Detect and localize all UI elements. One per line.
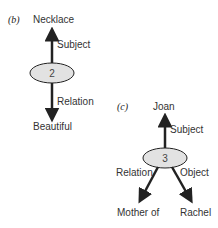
node-mother-of: Mother of <box>117 207 159 218</box>
diagram-canvas: (b) Necklace Subject 2 Relation Beautifu… <box>0 0 218 228</box>
panel-label-c: (c) <box>117 101 129 113</box>
edge-label-relation-b: Relation <box>57 96 94 107</box>
node-rachel: Rachel <box>180 207 211 218</box>
diagram-b: (b) Necklace Subject 2 Relation Beautifu… <box>8 14 94 132</box>
node-necklace: Necklace <box>33 14 75 25</box>
node-number-2: 2 <box>49 68 55 79</box>
edge-label-subject-b: Subject <box>57 39 91 50</box>
node-number-3: 3 <box>162 153 168 164</box>
node-joan: Joan <box>153 101 175 112</box>
panel-label-b: (b) <box>8 14 20 26</box>
edge-label-relation-c: Relation <box>116 167 153 178</box>
edge-label-subject-c: Subject <box>170 124 204 135</box>
diagram-c: (c) Joan Subject 3 Relation Object Mothe… <box>116 101 211 218</box>
edge-label-object-c: Object <box>180 167 209 178</box>
node-beautiful: Beautiful <box>33 121 72 132</box>
